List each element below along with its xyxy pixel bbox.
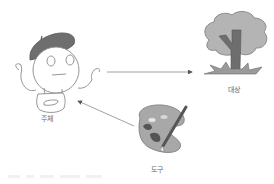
object-label: 대상 xyxy=(228,85,241,94)
tree-icon xyxy=(204,11,267,74)
artist-with-beret-icon xyxy=(16,33,100,112)
palette-and-brush-icon xyxy=(139,105,186,153)
subject-label: 주체 xyxy=(41,115,53,123)
diagram-canvas: 주체 대상 도구 xyxy=(0,0,274,184)
tool-label: 도구 xyxy=(151,166,164,174)
faint-caption-marks xyxy=(8,175,128,179)
arrow-tool-to-subject xyxy=(78,101,134,126)
